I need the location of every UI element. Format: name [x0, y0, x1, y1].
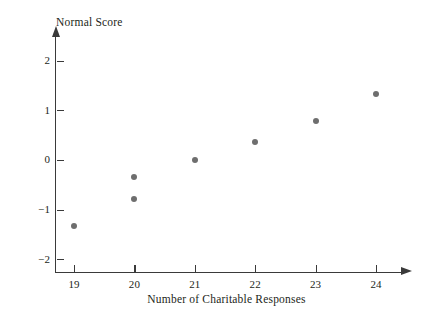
y-tick-label-neg1: −1 — [24, 204, 50, 215]
data-point — [252, 139, 258, 145]
x-axis-title: Number of Charitable Responses — [0, 293, 429, 306]
y-tick-mark — [57, 160, 64, 161]
x-tick-label-text: 21 — [180, 278, 210, 290]
y-tick-mark — [57, 259, 64, 260]
y-tick-mark — [57, 110, 64, 111]
y-tick-label-text: 0 — [28, 154, 50, 165]
x-tick-label-text: 22 — [240, 278, 270, 290]
y-axis-line — [55, 36, 56, 273]
y-axis-title: Normal Score — [56, 16, 123, 29]
y-tick-label-text: −1 — [28, 204, 50, 215]
x-tick-label-text: 20 — [119, 278, 149, 290]
y-tick-label-0: 0 — [24, 154, 50, 165]
x-tick-label-text: 19 — [59, 278, 89, 290]
x-axis-line — [55, 272, 403, 273]
x-tick-label-19: 19 — [59, 278, 89, 290]
x-tick-mark — [376, 265, 377, 272]
x-tick-label-24: 24 — [361, 278, 391, 290]
x-tick-label-text: 23 — [301, 278, 331, 290]
data-point — [192, 157, 198, 163]
x-tick-label-22: 22 — [240, 278, 270, 290]
x-tick-mark — [255, 265, 256, 272]
data-point — [373, 91, 379, 97]
x-tick-mark — [74, 265, 75, 272]
y-axis-arrow-icon — [52, 26, 60, 37]
y-tick-label-1: 1 — [24, 105, 50, 116]
y-tick-label-text: −2 — [28, 254, 50, 265]
y-tick-label-2: 2 — [24, 55, 50, 66]
scatter-plot-figure: Normal Score 2 1 0 −1 −2 19 20 21 22 23 — [0, 0, 429, 324]
x-tick-label-21: 21 — [180, 278, 210, 290]
x-tick-mark — [316, 265, 317, 272]
x-tick-mark — [195, 265, 196, 272]
data-point — [131, 196, 137, 202]
data-point — [131, 174, 137, 180]
y-tick-mark — [57, 61, 64, 62]
data-point — [71, 223, 77, 229]
y-tick-label-text: 1 — [28, 105, 50, 116]
y-tick-mark — [57, 210, 64, 211]
y-tick-label-text: 2 — [28, 55, 50, 66]
y-tick-label-neg2: −2 — [24, 254, 50, 265]
data-point — [313, 118, 319, 124]
x-axis-arrow-icon — [401, 267, 412, 275]
x-tick-mark — [134, 265, 135, 272]
x-tick-label-text: 24 — [361, 278, 391, 290]
x-tick-label-20: 20 — [119, 278, 149, 290]
x-tick-label-23: 23 — [301, 278, 331, 290]
